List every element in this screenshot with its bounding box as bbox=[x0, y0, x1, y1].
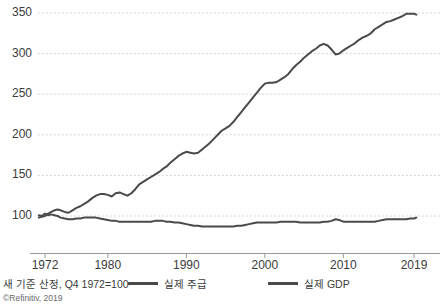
x-tick-label: 1980 bbox=[85, 258, 131, 272]
x-tick-label: 2019 bbox=[391, 258, 437, 272]
y-tick-label: 250 bbox=[0, 86, 32, 100]
legend-swatch-real-gdp bbox=[268, 282, 298, 285]
chart-source: ©Refinitiv, 2019 bbox=[3, 293, 63, 303]
y-tick-label: 300 bbox=[0, 46, 32, 60]
x-tick-label: 1990 bbox=[163, 258, 209, 272]
y-tick-label: 150 bbox=[0, 167, 32, 181]
chart-note: 새 기준 산정, Q4 1972=100 bbox=[3, 276, 129, 291]
y-tick-label: 350 bbox=[0, 5, 32, 19]
data-series bbox=[39, 14, 417, 227]
legend-label-real-wage: 실제 주급 bbox=[164, 276, 207, 291]
series-line-real-gdp bbox=[39, 14, 417, 218]
y-tick-label: 100 bbox=[0, 208, 32, 222]
legend-swatch-real-wage bbox=[128, 282, 158, 285]
legend-item-real-wage: 실제 주급 bbox=[128, 276, 207, 291]
legend-label-real-gdp: 실제 GDP bbox=[304, 276, 350, 291]
y-tick-label: 200 bbox=[0, 127, 32, 141]
x-tick-label: 2010 bbox=[320, 258, 366, 272]
x-tick-label: 2000 bbox=[242, 258, 288, 272]
legend-item-real-gdp: 실제 GDP bbox=[268, 276, 350, 291]
x-tick-label: 1972 bbox=[22, 258, 68, 272]
chart-container: 100150200250300350 197219801990200020102… bbox=[0, 0, 444, 308]
